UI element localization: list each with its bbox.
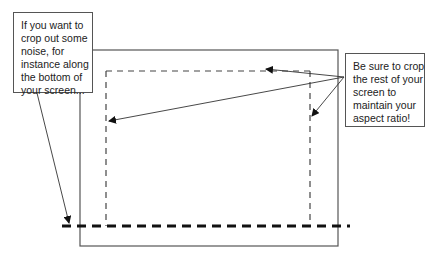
arrow-to-crop-line xyxy=(37,93,69,223)
crop-region-dashed xyxy=(106,71,310,226)
right-callout: Be sure to crop the rest of your screen … xyxy=(345,53,425,127)
left-callout-line: If you want to xyxy=(21,19,85,32)
left-callout-line: crop out some xyxy=(21,32,85,45)
arrow-to-left-edge xyxy=(109,77,344,121)
right-callout-line: maintain your xyxy=(353,99,417,112)
left-callout-line: instance along xyxy=(21,58,85,71)
right-callout-line: the rest of your xyxy=(353,73,417,86)
right-callout-line: screen to xyxy=(353,86,417,99)
left-callout: If you want to crop out some noise, for … xyxy=(13,12,93,93)
left-callout-line: the bottom of xyxy=(21,71,85,84)
right-callout-line: Be sure to crop xyxy=(353,60,417,73)
arrow-to-right-edge xyxy=(312,77,344,116)
screen-frame xyxy=(80,50,338,246)
left-callout-line: noise, for xyxy=(21,45,85,58)
arrow-to-top-edge xyxy=(266,69,344,77)
right-callout-line: aspect ratio! xyxy=(353,112,417,125)
left-callout-line: your screen... xyxy=(21,84,85,97)
